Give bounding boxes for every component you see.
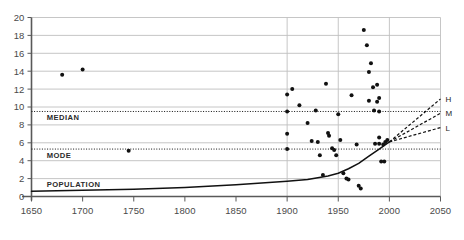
scatter-point xyxy=(297,103,301,107)
scatter-point xyxy=(382,160,386,164)
scatter-point xyxy=(285,132,289,136)
y-tick-label: 10 xyxy=(14,101,25,112)
scatter-point xyxy=(371,85,375,89)
annotation-mode: MODE xyxy=(47,151,72,160)
scatter-point xyxy=(350,93,354,97)
gridlines xyxy=(32,18,441,197)
y-tick-label: 16 xyxy=(14,48,25,59)
annotation-median: MEDIAN xyxy=(47,113,80,122)
scatter-point xyxy=(369,61,373,65)
y-tick-label: 2 xyxy=(19,173,24,184)
scatter-point xyxy=(306,121,310,125)
y-tick-label: 6 xyxy=(19,137,24,148)
scatter-point xyxy=(375,100,379,104)
y-axis-ticks: 02468101214161820 xyxy=(14,12,32,202)
annotation-m: M xyxy=(446,109,453,118)
scatter-point xyxy=(377,96,381,100)
scatter-points xyxy=(60,28,389,190)
annotation-l: L xyxy=(446,124,451,133)
scatter-point xyxy=(346,177,350,181)
scatter-point xyxy=(373,142,377,146)
scatter-point xyxy=(334,153,338,157)
scatter-point xyxy=(127,149,131,153)
x-tick-label: 2050 xyxy=(430,205,452,216)
scatter-chart: 0246810121416182016501700175018001850190… xyxy=(0,0,464,240)
scatter-point xyxy=(338,138,342,142)
scatter-point xyxy=(365,43,369,47)
annotation-population: POPULATION xyxy=(47,180,101,189)
scatter-point xyxy=(327,134,331,138)
scatter-point xyxy=(359,186,363,190)
x-tick-label: 1950 xyxy=(327,205,349,216)
scatter-point xyxy=(367,70,371,74)
scatter-point xyxy=(314,109,318,113)
scatter-point xyxy=(375,83,379,87)
y-tick-label: 4 xyxy=(19,155,24,166)
annotations: MEDIANMODEPOPULATIONHML xyxy=(47,95,453,189)
y-tick-label: 18 xyxy=(14,30,25,41)
y-tick-label: 14 xyxy=(14,66,25,77)
scatter-point xyxy=(377,109,381,113)
x-axis-ticks: 165017001750180018501900195020002050 xyxy=(21,197,452,216)
scatter-point xyxy=(336,112,340,116)
scatter-point xyxy=(321,173,325,177)
scatter-point xyxy=(60,73,64,77)
x-tick-label: 2000 xyxy=(379,205,401,216)
scatter-point xyxy=(310,139,314,143)
scatter-point xyxy=(377,142,381,146)
scatter-point xyxy=(377,135,381,139)
projection-line-h xyxy=(389,99,440,142)
scatter-point xyxy=(81,67,85,71)
x-tick-label: 1850 xyxy=(225,205,247,216)
x-tick-label: 1750 xyxy=(123,205,145,216)
scatter-point xyxy=(285,147,289,151)
scatter-point xyxy=(385,138,389,142)
scatter-point xyxy=(290,87,294,91)
annotation-h: H xyxy=(446,95,452,104)
x-tick-label: 1800 xyxy=(174,205,196,216)
scatter-point xyxy=(324,82,328,86)
y-tick-label: 20 xyxy=(14,12,25,23)
scatter-point xyxy=(362,28,366,32)
scatter-point xyxy=(285,92,289,96)
scatter-point xyxy=(372,109,376,113)
scatter-point xyxy=(316,140,320,144)
scatter-point xyxy=(285,109,289,113)
chart-canvas: 0246810121416182016501700175018001850190… xyxy=(0,0,464,240)
scatter-point xyxy=(341,171,345,175)
x-tick-label: 1900 xyxy=(276,205,298,216)
y-tick-label: 12 xyxy=(14,84,25,95)
scatter-point xyxy=(367,99,371,103)
x-tick-label: 1700 xyxy=(72,205,94,216)
scatter-point xyxy=(318,153,322,157)
scatter-point xyxy=(332,148,336,152)
scatter-point xyxy=(355,143,359,147)
y-tick-label: 0 xyxy=(19,191,24,202)
y-tick-label: 8 xyxy=(19,119,24,130)
projection-line-m xyxy=(389,113,440,142)
x-tick-label: 1650 xyxy=(21,205,43,216)
